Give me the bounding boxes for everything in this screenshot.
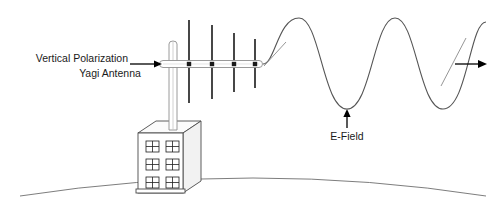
efield-arrow (343, 109, 350, 128)
antenna-mast (169, 41, 177, 130)
window (166, 159, 179, 170)
efield-label: E-Field (330, 130, 363, 142)
building-base (136, 189, 185, 193)
boom-to-wave-leader (264, 42, 286, 66)
propagation-arrow (455, 60, 487, 68)
antenna-propagation-diagram: Vertical Polarization Yagi Antenna E-Fie… (0, 0, 503, 222)
ground-curve (20, 178, 486, 196)
window (146, 159, 159, 170)
wave-direction-leader (441, 38, 466, 86)
antenna-label-line2: Yagi Antenna (79, 67, 141, 79)
window (166, 141, 179, 152)
window (166, 177, 179, 188)
diagram-canvas: Vertical Polarization Yagi Antenna E-Fie… (0, 0, 503, 222)
window (146, 177, 159, 188)
window (146, 141, 159, 152)
building-side-face (183, 121, 201, 193)
building (136, 121, 201, 193)
antenna-label-line1: Vertical Polarization (36, 52, 128, 64)
